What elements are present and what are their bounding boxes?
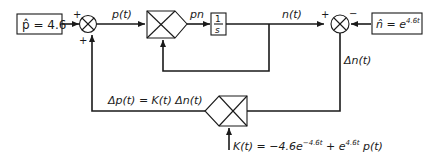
sum-right-minus: − [349, 8, 357, 19]
sum-junction-left: + + [73, 9, 97, 46]
setpoint-n-block: n̂ = e4.6t [372, 13, 422, 34]
setpoint-p-label: p̂ = 4.6 [22, 18, 66, 32]
multiplier-bottom [205, 96, 247, 126]
integrator-block: 1 s [211, 13, 226, 35]
sum-left-plus-top: + [73, 9, 81, 20]
signal-delta-n-path [247, 33, 340, 111]
sum-right-plus: + [321, 9, 329, 20]
setpoint-p-block: p̂ = 4.6 [17, 14, 66, 34]
signal-delta-n-label: Δn(t) [343, 54, 371, 67]
signal-pn-label: pn [189, 8, 204, 21]
sum-junction-right: + − [321, 8, 357, 33]
block-diagram: p̂ = 4.6 + + p(t) pn 1 s n(t) + − [0, 0, 430, 159]
setpoint-n-label: n̂ = e4.6t [376, 17, 420, 31]
sum-left-plus-bottom: + [79, 35, 87, 46]
signal-n-label: n(t) [282, 8, 302, 21]
gain-k-label: K(t) = −4.6e−4.6t + e4.6t p(t) [233, 139, 383, 153]
signal-delta-p-label: Δp(t) = K(t) Δn(t) [107, 94, 203, 107]
integrator-denominator: s [215, 25, 220, 35]
signal-p-label: p(t) [111, 8, 132, 21]
multiplier-top [147, 11, 187, 38]
integrator-numerator: 1 [215, 14, 221, 24]
